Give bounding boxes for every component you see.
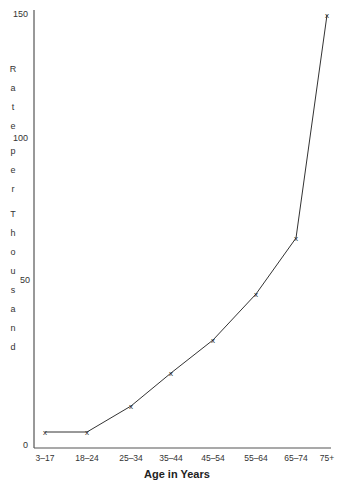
y-tick-label: 150 xyxy=(0,9,28,19)
line-chart: xxxxxxxx 150100500 RateperThousand 3–171… xyxy=(0,0,338,487)
y-label-letter: n xyxy=(9,323,17,333)
y-label-letter: t xyxy=(9,102,17,112)
data-point-marker: x xyxy=(294,234,298,243)
y-label-letter: e xyxy=(9,121,17,131)
y-label-letter: a xyxy=(9,304,17,314)
y-label-letter: e xyxy=(9,165,17,175)
data-point-marker: x xyxy=(254,290,258,299)
y-label-letter: d xyxy=(9,342,17,352)
y-label-letter: a xyxy=(9,83,17,93)
x-tick-label: 3–17 xyxy=(25,453,65,463)
x-tick-label: 35–44 xyxy=(151,453,191,463)
x-tick-label: 75+ xyxy=(307,453,338,463)
y-label-letter: s xyxy=(9,285,17,295)
plot-area: xxxxxxxx xyxy=(0,0,338,487)
data-point-marker: x xyxy=(85,428,89,437)
x-tick-label: 18–24 xyxy=(67,453,107,463)
y-tick-label: 50 xyxy=(2,275,30,285)
data-markers: xxxxxxxx xyxy=(43,11,329,437)
y-label-letter: o xyxy=(9,247,17,257)
y-label-letter: R xyxy=(9,64,17,74)
x-tick-label: 55–64 xyxy=(236,453,276,463)
y-tick-label: 100 xyxy=(0,133,28,143)
y-label-letter: r xyxy=(9,184,17,194)
data-point-marker: x xyxy=(129,402,133,411)
x-tick-label: 25–34 xyxy=(111,453,151,463)
x-tick-label: 45–54 xyxy=(193,453,233,463)
data-point-marker: x xyxy=(43,428,47,437)
data-point-marker: x xyxy=(211,336,215,345)
data-point-marker: x xyxy=(169,369,173,378)
y-label-letter: u xyxy=(9,266,17,276)
data-point-marker: x xyxy=(325,11,329,20)
y-label-letter: T xyxy=(9,209,17,219)
y-tick-label: 0 xyxy=(0,440,28,450)
y-label-letter: p xyxy=(9,146,17,156)
y-label-letter: h xyxy=(9,228,17,238)
data-line xyxy=(45,15,327,432)
x-axis-label: Age in Years xyxy=(144,468,210,480)
